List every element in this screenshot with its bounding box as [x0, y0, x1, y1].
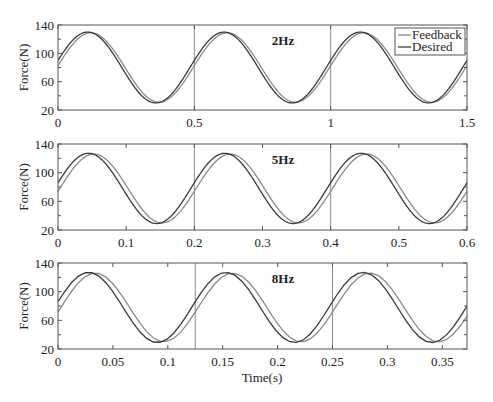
y-tick-label: 20 — [41, 103, 54, 118]
x-tick-label: 0.1 — [160, 354, 176, 369]
subplot-5hz: 206010014000.10.20.30.40.50.6Force(N)5Hz — [16, 137, 476, 251]
y-axis-label: Force(N) — [16, 282, 31, 330]
frequency-label: 5Hz — [272, 152, 295, 167]
desired-curve — [58, 272, 467, 342]
y-tick-label: 60 — [41, 313, 54, 328]
subplot-8hz: 206010014000.050.10.150.20.250.30.35Forc… — [16, 256, 467, 386]
x-tick-label: 0.5 — [186, 115, 202, 130]
x-tick-label: 1.5 — [459, 115, 475, 130]
x-tick-label: 0.35 — [431, 354, 454, 369]
legend-label: Desired — [412, 39, 453, 54]
force-tracking-figure: 206010014000.511.5Force(N)2HzFeedbackDes… — [0, 0, 493, 402]
subplot-2hz: 206010014000.511.5Force(N)2HzFeedbackDes… — [16, 18, 475, 131]
x-axis-label: Time(s) — [242, 370, 283, 385]
x-tick-label: 0.2 — [186, 235, 202, 250]
axes-frame — [58, 263, 467, 349]
x-tick-label: 0.3 — [379, 354, 395, 369]
y-tick-label: 60 — [41, 194, 54, 209]
x-tick-label: 0.4 — [323, 235, 340, 250]
x-tick-label: 0 — [55, 235, 62, 250]
legend: FeedbackDesired — [395, 27, 465, 55]
feedback-curve — [58, 273, 467, 342]
x-tick-label: 0.1 — [118, 235, 134, 250]
x-tick-label: 0.25 — [321, 354, 344, 369]
x-tick-label: 1 — [327, 115, 334, 130]
desired-curve — [58, 153, 467, 223]
y-tick-label: 100 — [35, 165, 55, 180]
feedback-curve — [58, 154, 467, 223]
x-tick-label: 0.2 — [269, 354, 285, 369]
frequency-label: 8Hz — [272, 271, 295, 286]
frequency-label: 2Hz — [272, 33, 295, 48]
y-tick-label: 20 — [41, 223, 54, 238]
y-tick-label: 20 — [41, 342, 54, 357]
x-tick-label: 0.5 — [391, 235, 407, 250]
y-axis-label: Force(N) — [16, 44, 31, 92]
y-axis-label: Force(N) — [16, 163, 31, 211]
y-tick-label: 140 — [35, 18, 55, 33]
y-tick-label: 60 — [41, 74, 54, 89]
x-tick-label: 0.6 — [459, 235, 476, 250]
y-tick-label: 140 — [35, 256, 55, 271]
y-tick-label: 100 — [35, 284, 55, 299]
x-tick-label: 0 — [55, 354, 62, 369]
x-tick-label: 0 — [55, 115, 62, 130]
x-tick-label: 0.15 — [211, 354, 234, 369]
x-tick-label: 0.05 — [102, 354, 125, 369]
axes-frame — [58, 144, 467, 230]
x-tick-label: 0.3 — [254, 235, 270, 250]
y-tick-label: 140 — [35, 137, 55, 152]
y-tick-label: 100 — [35, 46, 55, 61]
